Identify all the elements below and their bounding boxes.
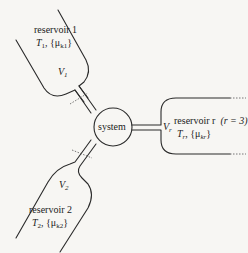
reservoir-2-name: reservoir 2 — [29, 205, 72, 215]
reservoir-1-outline — [16, 40, 84, 102]
reservoir-1-volume: V1 — [58, 67, 68, 77]
reservoir-r-state: Tr, {μkr} — [177, 129, 211, 139]
system-label: system — [98, 122, 126, 132]
diagram-canvas: system reservoir 1 T1, {μk1} V1 V2 reser… — [0, 0, 248, 253]
reservoir-r-volume: Vr — [163, 122, 172, 132]
reservoir-2-state: T2, {μk2} — [32, 218, 68, 228]
reservoir-2-volume: V2 — [59, 180, 69, 190]
reservoir-1-neck — [75, 86, 96, 113]
reservoir-1-state: T1, {μk1} — [36, 38, 72, 48]
reservoir-2-outline — [60, 144, 96, 252]
reservoir-r-name: reservoir r (r = 3) — [174, 116, 248, 126]
reservoir-1-name: reservoir 1 — [34, 25, 77, 35]
